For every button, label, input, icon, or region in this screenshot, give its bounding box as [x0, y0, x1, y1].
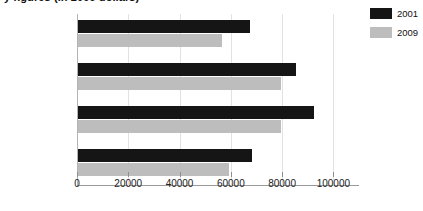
bar-group	[78, 149, 360, 176]
legend-label-2009: 2009	[397, 28, 418, 38]
bar-direct-service-2001[interactable]	[78, 20, 250, 33]
bar-group	[78, 20, 360, 47]
legend-item-2009[interactable]: 2009	[370, 25, 420, 40]
x-axis-tick	[77, 172, 78, 177]
bar-direct-service-2009[interactable]	[78, 34, 222, 47]
x-axis-tick-label: 20000	[114, 179, 142, 189]
plot-area	[77, 14, 359, 186]
bar-researcher-2009[interactable]	[78, 163, 229, 176]
x-axis-tick-label: 60000	[217, 179, 245, 189]
x-axis-tick	[128, 172, 129, 177]
bar-full-professor-2009[interactable]	[78, 77, 281, 90]
chart-title: y figures (in 2009 dollars)	[4, 0, 139, 3]
bar-chart: y figures (in 2009 dollars) 2001 2009 02…	[0, 0, 423, 211]
x-axis-tick	[180, 172, 181, 177]
x-axis-tick-label: 40000	[166, 179, 194, 189]
legend-label-2001: 2001	[397, 9, 418, 19]
bar-applied-2009[interactable]	[78, 120, 281, 133]
x-axis-tick	[231, 172, 232, 177]
x-axis-tick	[282, 172, 283, 177]
x-axis-tick-label: 80000	[268, 179, 296, 189]
legend-swatch-2009	[370, 27, 392, 38]
x-axis-tick-label: 100000	[317, 179, 350, 189]
bar-applied-2001[interactable]	[78, 106, 314, 119]
legend-item-2001[interactable]: 2001	[370, 6, 420, 21]
x-axis-tick-label: 0	[74, 179, 80, 189]
bar-full-professor-2001[interactable]	[78, 63, 296, 76]
bar-group	[78, 106, 360, 133]
bar-researcher-2001[interactable]	[78, 149, 252, 162]
legend-swatch-2001	[370, 8, 392, 19]
chart-legend: 2001 2009	[370, 6, 420, 44]
bar-group	[78, 63, 360, 90]
x-axis-tick	[333, 172, 334, 177]
